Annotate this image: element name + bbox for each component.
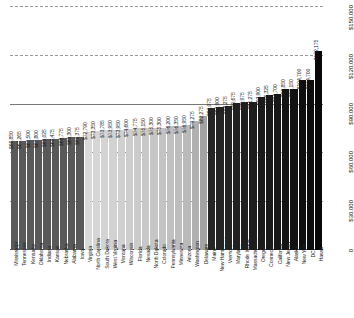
- bar[interactable]: $67,800: [35, 140, 42, 250]
- category-cell[interactable]: Montana: [117, 252, 125, 316]
- category-cell[interactable]: Kentucky: [26, 252, 34, 316]
- category-cell[interactable]: Iowa: [76, 252, 84, 316]
- category-cell[interactable]: Mississippi: [10, 252, 18, 316]
- category-cell[interactable]: Rhode Island: [241, 252, 249, 316]
- category-cell[interactable]: Minnesota: [175, 252, 183, 316]
- bar[interactable]: $66,850: [11, 141, 18, 250]
- bar[interactable]: $75,300: [150, 128, 157, 250]
- bar-cell[interactable]: $66,850: [10, 6, 18, 250]
- bar[interactable]: $122,175: [315, 51, 322, 250]
- bar-cell[interactable]: $95,700: [274, 6, 282, 250]
- category-cell[interactable]: South Dakota: [101, 252, 109, 316]
- category-cell[interactable]: Florida: [134, 252, 142, 316]
- category-cell[interactable]: Maine: [208, 252, 216, 316]
- bar[interactable]: $88,275: [225, 106, 232, 250]
- bar[interactable]: $68,475: [52, 139, 59, 250]
- category-cell[interactable]: DC: [306, 252, 314, 316]
- value-axis: 0$30,000$60,000$90,000$120,000$150,000: [323, 0, 353, 318]
- category-cell[interactable]: Hawaii: [315, 252, 323, 316]
- category-cell[interactable]: Delaware: [199, 252, 207, 316]
- bar-cell[interactable]: $91,275: [249, 6, 257, 250]
- bar[interactable]: $76,950: [183, 125, 190, 250]
- bar-value-label: $75,300: [157, 118, 162, 136]
- category-cell[interactable]: North Carolina: [92, 252, 100, 316]
- bar-value-label: $66,850: [9, 131, 14, 149]
- bar[interactable]: $90,975: [241, 102, 248, 250]
- category-cell[interactable]: California: [274, 252, 282, 316]
- category-cell[interactable]: Vermont: [224, 252, 232, 316]
- category-cell[interactable]: Washington: [191, 252, 199, 316]
- bar[interactable]: $72,790: [85, 132, 92, 250]
- bar[interactable]: $75,300: [159, 128, 166, 250]
- bar[interactable]: $68,775: [60, 138, 67, 250]
- category-cell[interactable]: Oregon: [257, 252, 265, 316]
- bar-cell[interactable]: $87,075: [208, 6, 216, 250]
- category-cell[interactable]: Wisconsin: [125, 252, 133, 316]
- bar[interactable]: $67,500: [27, 140, 34, 250]
- bar-cell[interactable]: $67,500: [26, 6, 34, 250]
- category-cell[interactable]: New Hampshire: [216, 252, 224, 316]
- category-cell[interactable]: Alaska: [290, 252, 298, 316]
- bar[interactable]: $67,265: [19, 141, 26, 250]
- bar-cell[interactable]: $95,325: [265, 6, 273, 250]
- axis-tick-label: $90,000: [348, 103, 354, 125]
- bar[interactable]: $91,275: [249, 102, 256, 250]
- category-cell[interactable]: New York: [298, 252, 306, 316]
- category-cell[interactable]: West Virginia: [109, 252, 117, 316]
- bar[interactable]: $75,150: [142, 128, 149, 250]
- category-cell[interactable]: Tennessee: [18, 252, 26, 316]
- bar[interactable]: $76,350: [175, 126, 182, 250]
- category-cell[interactable]: Oklahoma: [35, 252, 43, 316]
- bar[interactable]: $76,200: [167, 126, 174, 250]
- category-cell[interactable]: Nevada: [142, 252, 150, 316]
- category-cell[interactable]: Pennsylvania: [166, 252, 174, 316]
- bar[interactable]: $98,850: [282, 89, 289, 250]
- category-cell[interactable]: Alabama: [68, 252, 76, 316]
- bar-cell[interactable]: $90,675: [232, 6, 240, 250]
- bar-value-label: $104,700: [297, 68, 302, 88]
- bar-cell[interactable]: $104,700: [298, 6, 306, 250]
- category-cell[interactable]: Indiana: [43, 252, 51, 316]
- category-cell[interactable]: Connecticut: [265, 252, 273, 316]
- bar[interactable]: $95,700: [274, 94, 281, 250]
- category-cell[interactable]: Virginia: [84, 252, 92, 316]
- bar[interactable]: $82,275: [200, 116, 207, 250]
- bar[interactable]: $87,075: [208, 108, 215, 250]
- bar-cell[interactable]: $99,150: [290, 6, 298, 250]
- bar[interactable]: $69,375: [76, 137, 83, 250]
- bar[interactable]: $73,785: [101, 130, 108, 250]
- category-cell[interactable]: Maryland: [232, 252, 240, 316]
- bar[interactable]: $99,150: [290, 89, 297, 250]
- bar[interactable]: $104,700: [299, 80, 306, 250]
- category-cell[interactable]: Kansas: [51, 252, 59, 316]
- category-cell[interactable]: Colorado: [158, 252, 166, 316]
- bar-cell[interactable]: $82,275: [199, 6, 207, 250]
- bar[interactable]: $74,600: [126, 129, 133, 250]
- bar[interactable]: $68,025: [43, 139, 50, 250]
- bar[interactable]: $73,950: [109, 130, 116, 250]
- bar-cell[interactable]: $79,275: [191, 6, 199, 250]
- bar-cell[interactable]: $93,900: [257, 6, 265, 250]
- bar[interactable]: $74,775: [134, 128, 141, 250]
- bar-value-label: $93,900: [256, 87, 261, 105]
- bar[interactable]: $104,700: [307, 80, 314, 250]
- bar-cell[interactable]: $67,265: [18, 6, 26, 250]
- bar-cell[interactable]: $88,275: [224, 6, 232, 250]
- category-cell[interactable]: New Jersey: [282, 252, 290, 316]
- category-cell[interactable]: Arizona: [183, 252, 191, 316]
- bar[interactable]: $95,325: [266, 95, 273, 250]
- bar-cell[interactable]: $98,850: [282, 6, 290, 250]
- bar[interactable]: $79,275: [192, 121, 199, 250]
- bar[interactable]: $73,350: [93, 131, 100, 250]
- category-cell[interactable]: Massachusetts: [249, 252, 257, 316]
- bar[interactable]: $69,300: [68, 137, 75, 250]
- category-cell[interactable]: North Dakota: [150, 252, 158, 316]
- bar-cell[interactable]: $87,900: [216, 6, 224, 250]
- bar[interactable]: $73,950: [118, 130, 125, 250]
- bar-cell[interactable]: $90,975: [241, 6, 249, 250]
- category-cell[interactable]: Nebraska: [59, 252, 67, 316]
- bar[interactable]: $87,900: [216, 107, 223, 250]
- bar[interactable]: $90,675: [233, 103, 240, 250]
- bar-cell[interactable]: $122,175: [315, 6, 323, 250]
- bar[interactable]: $93,900: [258, 97, 265, 250]
